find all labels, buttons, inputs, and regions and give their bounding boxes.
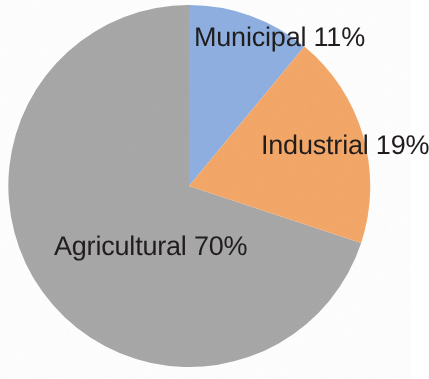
pie-label-municipal: Municipal 11% [194, 22, 365, 52]
pie-label-agricultural: Agricultural 70% [54, 231, 247, 261]
pie-label-industrial: Industrial 19% [261, 130, 429, 160]
